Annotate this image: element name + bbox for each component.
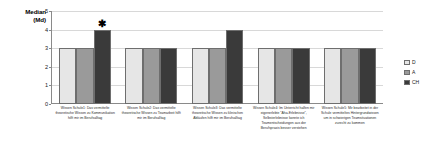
bars-wrap [192, 11, 244, 104]
bar-d[interactable] [59, 48, 76, 104]
y-tick-mark [49, 85, 51, 86]
significance-star-icon: ✱ [98, 19, 106, 29]
y-tick-label: 0 [45, 101, 48, 107]
bar-group [184, 11, 250, 104]
bar-group [251, 11, 317, 104]
y-axis-title: Median (Md) [4, 8, 46, 25]
bar-a[interactable] [209, 48, 226, 104]
bar-ch[interactable] [226, 30, 243, 104]
category-label: Wissen Schule1: Das vermittelte theoreti… [52, 106, 118, 132]
legend-item-ch[interactable]: CH [404, 78, 440, 86]
legend: DACH [404, 58, 440, 88]
y-axis-title-line-2: (Md) [4, 16, 46, 24]
bar-ch[interactable]: ✱ [94, 30, 111, 104]
y-tick-mark [49, 104, 51, 105]
bar-a[interactable] [76, 48, 93, 104]
y-axis-title-line-1: Median [4, 8, 46, 16]
bar-ch[interactable] [160, 48, 177, 104]
y-tick-mark [49, 11, 51, 12]
y-tick-label: 1 [45, 82, 48, 88]
category-label: Wissen Schule5: Mir bearbeitet in der Sc… [317, 106, 383, 132]
legend-swatch-icon [404, 70, 410, 75]
category-label: Wissen Schule4: Im Unterricht halfen mir… [251, 106, 317, 132]
bar-group [118, 11, 184, 104]
bars-wrap [324, 11, 376, 104]
bars-wrap [125, 11, 177, 104]
y-tick-label: 3 [45, 45, 48, 51]
y-tick-label: 2 [45, 64, 48, 70]
bar-d[interactable] [192, 48, 209, 104]
y-tick-mark [49, 30, 51, 31]
bar-chart: Median (Md) 012345 ✱ Wissen Schule1: Das… [0, 0, 442, 145]
legend-swatch-icon [404, 80, 410, 85]
bar-d[interactable] [125, 48, 142, 104]
plot-area: 012345 ✱ [51, 11, 383, 104]
category-label: Wissen Schule2: Das vermittelte theoreti… [118, 106, 184, 132]
y-tick-label: 5 [45, 8, 48, 14]
legend-label: A [412, 69, 415, 75]
bar-a[interactable] [341, 48, 358, 104]
bars-wrap [258, 11, 310, 104]
bar-ch[interactable] [359, 48, 376, 104]
y-tick-mark [49, 67, 51, 68]
bar-groups: ✱ [52, 11, 383, 104]
bar-group [317, 11, 383, 104]
x-axis-category-labels: Wissen Schule1: Das vermittelte theoreti… [52, 106, 383, 132]
legend-swatch-icon [404, 60, 410, 65]
bar-d[interactable] [324, 48, 341, 104]
legend-item-a[interactable]: A [404, 68, 440, 76]
bar-d[interactable] [258, 48, 275, 104]
legend-item-d[interactable]: D [404, 58, 440, 66]
y-tick-mark [49, 48, 51, 49]
legend-label: D [412, 59, 416, 65]
category-label: Wissen Schule3: Das vermittelte theoreti… [184, 106, 250, 132]
legend-label: CH [412, 79, 419, 85]
bar-a[interactable] [143, 48, 160, 104]
bar-group: ✱ [52, 11, 118, 104]
bar-ch[interactable] [292, 48, 309, 104]
bars-wrap: ✱ [59, 11, 111, 104]
bar-a[interactable] [275, 48, 292, 104]
y-tick-label: 4 [45, 27, 48, 33]
